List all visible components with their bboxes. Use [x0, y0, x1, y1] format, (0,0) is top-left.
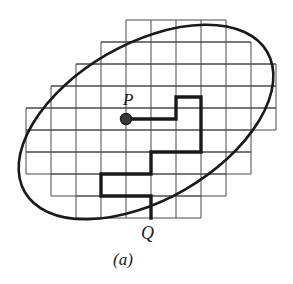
figure-caption: (a)	[113, 251, 133, 268]
point-p-marker	[121, 114, 132, 125]
point-p-label: P	[123, 91, 133, 108]
point-q-label: Q	[141, 224, 154, 242]
figure-container: P Q (a)	[0, 0, 293, 284]
